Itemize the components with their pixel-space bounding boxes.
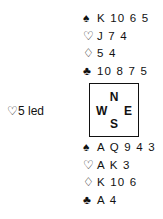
north-hand: ♠K 10 6 5 ♡J 7 4 ♢5 4 ♣10 8 7 5 — [83, 10, 149, 80]
diamond-icon: ♢ — [83, 45, 97, 63]
compass-north: N — [90, 91, 138, 103]
compass-south: S — [90, 118, 138, 130]
heart-icon: ♡ — [7, 104, 18, 118]
south-hearts-cards: A K 3 — [97, 159, 131, 171]
south-spades-row: ♠A Q 9 4 3 — [83, 139, 156, 157]
compass-west: W — [96, 105, 107, 117]
south-hearts-row: ♡A K 3 — [83, 157, 156, 175]
south-diamonds-cards: K 10 6 — [97, 176, 137, 188]
opening-lead: ♡5 led — [7, 103, 44, 119]
south-clubs-row: ♣A 4 — [83, 192, 156, 210]
north-clubs-cards: 10 8 7 5 — [97, 65, 148, 77]
compass-east: E — [124, 105, 132, 117]
heart-icon: ♡ — [83, 157, 97, 175]
north-spades-cards: K 10 6 5 — [97, 12, 149, 24]
club-icon: ♣ — [83, 192, 97, 210]
north-clubs-row: ♣10 8 7 5 — [83, 63, 149, 81]
south-hand: ♠A Q 9 4 3 ♡A K 3 ♢K 10 6 ♣A 4 — [83, 139, 156, 209]
club-icon: ♣ — [83, 63, 97, 81]
north-diamonds-cards: 5 4 — [97, 47, 117, 59]
lead-text: 5 led — [18, 104, 44, 118]
compass-box: N W E S — [89, 83, 139, 137]
spade-icon: ♠ — [83, 139, 97, 157]
heart-icon: ♡ — [83, 28, 97, 46]
spade-icon: ♠ — [83, 10, 97, 28]
south-clubs-cards: A 4 — [97, 194, 117, 206]
north-hearts-row: ♡J 7 4 — [83, 28, 149, 46]
south-diamonds-row: ♢K 10 6 — [83, 174, 156, 192]
diamond-icon: ♢ — [83, 174, 97, 192]
north-spades-row: ♠K 10 6 5 — [83, 10, 149, 28]
north-diamonds-row: ♢5 4 — [83, 45, 149, 63]
north-hearts-cards: J 7 4 — [97, 30, 128, 42]
south-spades-cards: A Q 9 4 3 — [97, 141, 156, 153]
